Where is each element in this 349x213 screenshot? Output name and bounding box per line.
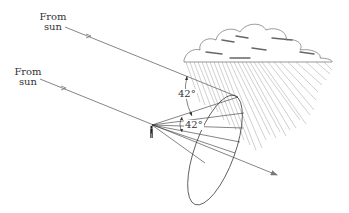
angle-label-upper: 42° <box>177 89 197 99</box>
label-from-sun-top: From sun <box>38 12 68 32</box>
cloud <box>184 24 332 62</box>
angle-label-lower: 42° <box>184 120 204 130</box>
rain <box>186 62 332 150</box>
label-from-sun-bottom: From sun <box>13 67 43 87</box>
observer-icon <box>150 126 152 138</box>
